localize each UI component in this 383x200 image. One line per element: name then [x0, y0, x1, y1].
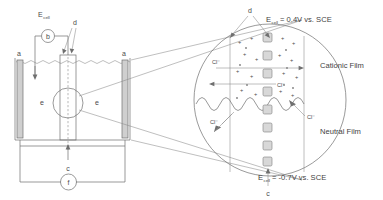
detail-magnified-view: + + + + + + + + + + + + + + + + d: [194, 7, 364, 197]
substrate-square: [263, 105, 272, 114]
charge-dot: [245, 47, 247, 49]
neutral-film-label: Neutral Film: [320, 127, 361, 136]
cl-arrow-head-1: [299, 66, 304, 70]
cl-label-3: Cl⁻: [210, 119, 218, 125]
charge-plus: +: [250, 73, 253, 79]
solution-left-label: e: [40, 99, 44, 106]
ecell-top-value: = 0.4V vs. SCE: [280, 15, 332, 24]
substrate-square: [263, 141, 272, 150]
d-label-left: d: [73, 19, 77, 26]
solution-right-label: e: [95, 99, 99, 106]
connector-line-upper-edge: [131, 20, 302, 60]
charge-dot: [285, 49, 287, 51]
charge-plus: +: [236, 68, 239, 74]
ecell-sub-left: cell: [43, 15, 50, 20]
cl-arrow-line-4: [293, 104, 305, 116]
electrode-right: [122, 60, 128, 138]
d-label-detail: d: [248, 7, 252, 14]
substrate-square: [263, 157, 272, 166]
beaker-vessel: [15, 58, 130, 140]
charge-dot: [292, 87, 294, 89]
d-pointer-head-b: [70, 48, 75, 53]
magnifier-connector: [79, 20, 302, 180]
voltmeter-label: b: [46, 33, 50, 40]
potential-arrow-head: [33, 75, 38, 80]
cl-label-1: Cl⁻: [212, 59, 220, 65]
charge-dot: [246, 84, 248, 86]
ecell-top-sub: cell: [272, 20, 279, 25]
substrate-square: [263, 51, 272, 60]
charge-plus: +: [255, 56, 258, 62]
cl-arrow-head-4: [289, 100, 296, 106]
charge-plus: +: [282, 70, 285, 76]
current-arrow-head: [66, 144, 71, 149]
cationic-film-label: Cationic Film: [320, 61, 364, 70]
charge-plus: +: [291, 92, 294, 98]
charge-plus: +: [279, 88, 282, 94]
d-detail-head-a: [230, 32, 235, 38]
charge-plus: +: [254, 91, 257, 97]
charge-plus: +: [290, 57, 293, 63]
electrolyte-surface: [16, 61, 130, 64]
film-interface-wavy: [196, 98, 304, 111]
charge-plus: +: [243, 51, 246, 57]
substrate-square: [263, 87, 272, 96]
c-label-left: c: [66, 165, 70, 172]
charge-plus: +: [292, 40, 295, 46]
charge-dot: [239, 64, 241, 66]
charge-plus: +: [240, 87, 243, 93]
ecell-top-prefix: E: [266, 15, 271, 24]
diagram-canvas: b E cell d a a e e c f: [0, 0, 383, 200]
substrate-square: [263, 69, 272, 78]
charge-plus: +: [278, 52, 281, 58]
electrode-left: [17, 60, 23, 138]
c-label-detail: c: [266, 190, 270, 197]
charge-plus: +: [238, 39, 241, 45]
d-pointer-line-b: [72, 28, 76, 50]
cl-label-4: Cl⁻: [307, 114, 315, 120]
ecell-bottom-prefix: E: [258, 173, 263, 182]
left-cell-schematic: b E cell d a a e e c f: [15, 11, 130, 190]
cl-label-2: Cl⁻: [277, 82, 285, 88]
voltmeter-lead-left: [35, 36, 42, 78]
ecell-bottom-value: = -0.7V vs. SCE: [272, 173, 326, 182]
ecell-bottom-sub: cell: [264, 178, 271, 183]
charge-plus: +: [295, 74, 298, 80]
charge-plus: +: [250, 35, 253, 41]
electrode-right-label: a: [122, 50, 126, 57]
charge-dot: [236, 97, 238, 99]
figure-root: b E cell d a a e e c f: [0, 0, 383, 200]
d-detail-line-a: [232, 16, 248, 35]
ammeter-label: f: [68, 179, 70, 186]
electrode-left-label: a: [17, 50, 21, 57]
substrate-square: [263, 123, 272, 132]
cl-arrow-head-2: [209, 82, 214, 86]
charge-plus: +: [281, 35, 284, 41]
